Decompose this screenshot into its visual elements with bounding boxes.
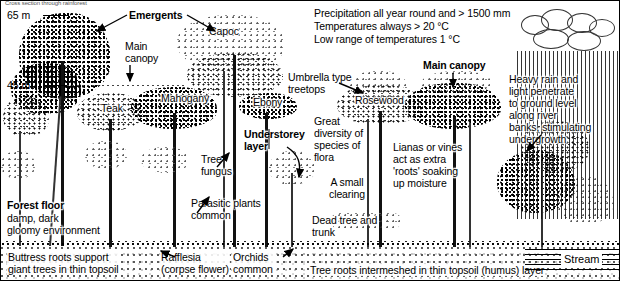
label-capoc: Capoc (209, 25, 239, 37)
scale-label-65m: 65 m (7, 9, 30, 21)
rain-cloud-6 (567, 31, 601, 51)
label-mahogany: Mahogany (161, 92, 209, 104)
climate-line-1: Precipitation all year round and > 1500 … (314, 7, 510, 19)
label-rafflesia: Rafflesia (corpse flower) (160, 251, 230, 275)
label-species-diversity: Great diversity of species of flora (314, 115, 363, 163)
main-canopy-foliage-right-upper (421, 71, 493, 97)
label-parasitic-plants: Parasitic plants common (191, 197, 261, 221)
understorey-foliage-far-left-2 (1, 151, 35, 179)
label-dead-tree: Dead tree and trunk (312, 214, 377, 238)
climate-line-2: Temperatures always > 20 °C (314, 20, 449, 32)
understorey-trunk-center (291, 173, 293, 247)
scale-label-45m: 45 m (7, 79, 30, 91)
scale-tick-line-65m (43, 15, 69, 16)
label-forest-floor-title: Forest floor (7, 199, 64, 211)
label-small-clearing: A small clearing (329, 176, 365, 200)
label-lianas-vines: Lianas or vines act as extra 'roots' soa… (393, 141, 462, 189)
label-tree-roots: Tree roots intermeshed in thin topsoil (… (309, 264, 545, 276)
teak-trunk (109, 119, 112, 247)
label-umbrella-treetops: Umbrella type treetops (288, 71, 351, 95)
mahogany-trunk (173, 113, 176, 247)
scale-tick-line-45m (43, 85, 67, 86)
rainforest-cross-section-diagram: Cross section through rainforest (0, 0, 620, 281)
label-forest-floor-body: damp, dark gloomy environment (7, 212, 100, 236)
label-rosewood: Rosewood (355, 94, 404, 106)
mahogany-foliage-lower (141, 147, 189, 173)
label-teak: Teak (101, 102, 123, 114)
scale-tick-dotted-45m (67, 85, 187, 86)
label-main-canopy-right: Main canopy (423, 59, 486, 71)
main-canopy-trunk-right-2 (469, 123, 471, 247)
label-orchids: Orchids common (232, 251, 274, 275)
rain-cloud-5 (533, 29, 569, 49)
label-main-canopy-left: Main canopy (125, 40, 158, 64)
label-heavy-rain: Heavy rain and light penetrate to ground… (509, 73, 591, 145)
label-buttress-roots: Buttress roots support giant trees in th… (7, 251, 120, 275)
diagram-caption: Cross section through rainforest (5, 0, 87, 7)
label-emergents: Emergents (129, 9, 182, 21)
label-ebony: Ebony (253, 96, 282, 108)
label-understorey-layer: Understorey layer (244, 128, 305, 152)
label-tree-fungus: Tree fungus (201, 153, 232, 177)
understorey-foliage-far-left (3, 97, 49, 137)
teak-foliage-lower (85, 141, 127, 169)
climate-line-3: Low range of temperatures 1 °C (314, 33, 460, 45)
label-stream: Stream (561, 253, 602, 265)
